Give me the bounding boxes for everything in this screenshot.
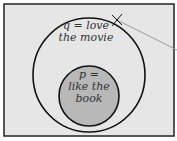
outer-label-line2: the movie bbox=[59, 31, 114, 44]
venn-diagram: q = love the movie p = like the book bbox=[0, 0, 177, 141]
inner-label-line3: book bbox=[76, 92, 103, 105]
